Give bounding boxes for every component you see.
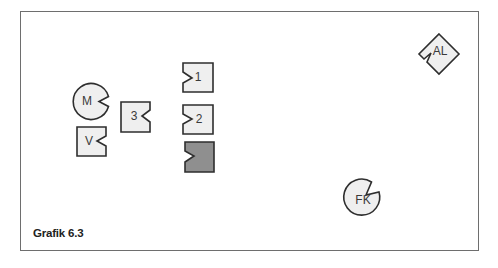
shape-v-label: V [85, 134, 93, 148]
shape-fk-label: FK [355, 193, 370, 207]
shape-dark-square [185, 142, 214, 172]
shape-1-square: 1 [183, 63, 213, 92]
shape-2-label: 2 [196, 112, 203, 126]
shape-3-label: 3 [131, 109, 138, 123]
shape-3-square: 3 [121, 102, 150, 132]
shape-m-label: M [82, 94, 92, 108]
shape-2-square: 2 [183, 105, 213, 134]
shape-al-label: AL [433, 44, 448, 58]
shape-fk-circle: FK [344, 179, 380, 215]
shape-m-circle: M [73, 84, 108, 120]
shape-v-square: V [77, 127, 106, 156]
figure-caption: Grafik 6.3 [33, 227, 83, 239]
shape-al-diamond: AL [419, 34, 459, 74]
shape-1-label: 1 [195, 70, 202, 84]
